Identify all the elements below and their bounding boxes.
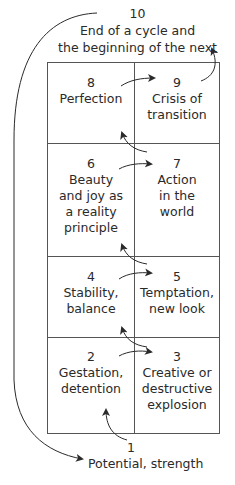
arrow-3-to-4: [122, 328, 147, 347]
arrow-9-to-10: [201, 49, 215, 81]
arrow-10-to-1: [14, 13, 97, 459]
arrow-4-to-5: [119, 273, 151, 279]
arrow-2-to-3: [119, 351, 151, 356]
flow-arrows: [0, 0, 235, 485]
arrow-1-to-2: [106, 410, 127, 440]
arrow-7-to-8: [122, 133, 147, 152]
arrow-8-to-9: [121, 78, 154, 86]
arrow-6-to-7: [119, 164, 151, 169]
arrow-5-to-6: [122, 245, 147, 264]
